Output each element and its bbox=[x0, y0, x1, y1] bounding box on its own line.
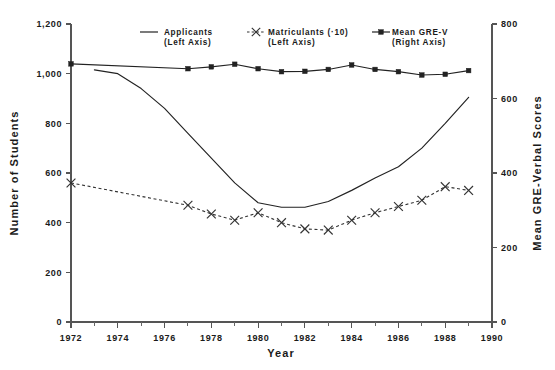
data-point-marker-x bbox=[417, 196, 426, 205]
legend-item-1: Matriculants (·10)(Left Axis) bbox=[247, 28, 348, 47]
left-tick-label: 400 bbox=[45, 218, 62, 228]
data-point-marker-square bbox=[373, 67, 378, 72]
data-point-marker-x bbox=[230, 216, 239, 225]
series-layer bbox=[67, 62, 473, 235]
data-point-marker-x bbox=[207, 210, 216, 219]
data-point-marker-x bbox=[324, 226, 333, 235]
series-mean-gre-v bbox=[69, 62, 471, 78]
right-tick-label: 200 bbox=[501, 243, 518, 253]
data-point-marker-square bbox=[69, 62, 74, 67]
data-point-marker-x bbox=[464, 186, 473, 195]
x-tick-label: 1984 bbox=[340, 333, 362, 343]
right-tick-label: 400 bbox=[501, 168, 518, 178]
data-point-marker-x bbox=[347, 216, 356, 225]
data-point-marker-x bbox=[371, 208, 380, 217]
legend-item-2: Mean GRE-V(Right Axis) bbox=[372, 28, 448, 47]
data-point-marker-square bbox=[279, 69, 284, 74]
legend-square-icon bbox=[379, 30, 384, 35]
legend-label-secondary: (Left Axis) bbox=[164, 38, 211, 47]
left-tick-label: 1,200 bbox=[36, 19, 62, 29]
x-tick-label: 1978 bbox=[200, 333, 222, 343]
data-point-marker-square bbox=[443, 72, 448, 77]
data-point-marker-x bbox=[254, 208, 263, 217]
data-point-marker-square bbox=[466, 68, 471, 73]
data-point-marker-square bbox=[349, 63, 354, 68]
data-point-marker-x bbox=[184, 201, 193, 210]
left-tick-label: 800 bbox=[45, 119, 62, 129]
data-point-marker-square bbox=[186, 66, 191, 71]
gre-applicants-line-chart: 02004006008001,0001,200 0200400600800 19… bbox=[0, 0, 555, 370]
data-point-marker-square bbox=[420, 73, 425, 78]
data-point-marker-x bbox=[277, 218, 286, 227]
series-line bbox=[71, 183, 469, 230]
right-tick-label: 600 bbox=[501, 94, 518, 104]
x-tick-label: 1980 bbox=[247, 333, 269, 343]
left-tick-label: 1,000 bbox=[36, 69, 62, 79]
x-tick-label: 1988 bbox=[434, 333, 456, 343]
y-axis-title: Number of Students bbox=[8, 111, 20, 236]
right-tick-label: 800 bbox=[501, 19, 518, 29]
series-applicants bbox=[94, 70, 468, 207]
data-point-marker-square bbox=[256, 66, 261, 71]
x-tick-label: 1986 bbox=[387, 333, 409, 343]
data-point-marker-square bbox=[396, 69, 401, 74]
legend-label-secondary: (Right Axis) bbox=[392, 38, 446, 47]
legend: Applicants(Left Axis)Matriculants (·10)(… bbox=[140, 28, 448, 47]
legend-label-primary: Mean GRE-V bbox=[392, 28, 448, 37]
legend-item-0: Applicants(Left Axis) bbox=[140, 28, 213, 47]
y2-axis-title: Mean GRE-Verbal Scores bbox=[531, 95, 543, 251]
left-tick-label: 600 bbox=[45, 168, 62, 178]
legend-label-secondary: (Left Axis) bbox=[268, 38, 315, 47]
x-tick-label: 1976 bbox=[153, 333, 175, 343]
legend-label-primary: Applicants bbox=[164, 28, 213, 37]
left-tick-label: 0 bbox=[56, 317, 62, 327]
x-axis-ticks: 1972197419761978198019821984198619881990 bbox=[60, 322, 503, 343]
data-point-marker-square bbox=[326, 67, 331, 72]
legend-label-primary: Matriculants (·10) bbox=[268, 28, 348, 37]
chart-container: 02004006008001,0001,200 0200400600800 19… bbox=[0, 0, 555, 370]
data-point-marker-x bbox=[394, 202, 403, 211]
left-axis-ticks: 02004006008001,0001,200 bbox=[36, 19, 71, 327]
x-tick-label: 1982 bbox=[294, 333, 316, 343]
series-matriculants-10 bbox=[67, 179, 473, 235]
x-axis-title: Year bbox=[267, 347, 295, 359]
data-point-marker-square bbox=[209, 65, 214, 70]
axes-group bbox=[71, 24, 492, 322]
data-point-marker-square bbox=[303, 69, 308, 74]
series-line bbox=[94, 70, 468, 207]
data-point-marker-square bbox=[232, 62, 237, 67]
x-tick-label: 1974 bbox=[107, 333, 129, 343]
x-tick-label: 1990 bbox=[481, 333, 503, 343]
x-tick-label: 1972 bbox=[60, 333, 82, 343]
right-tick-label: 0 bbox=[501, 317, 507, 327]
right-axis-ticks: 0200400600800 bbox=[492, 19, 518, 327]
data-point-marker-x bbox=[300, 224, 309, 233]
left-tick-label: 200 bbox=[45, 268, 62, 278]
series-line bbox=[71, 64, 469, 75]
